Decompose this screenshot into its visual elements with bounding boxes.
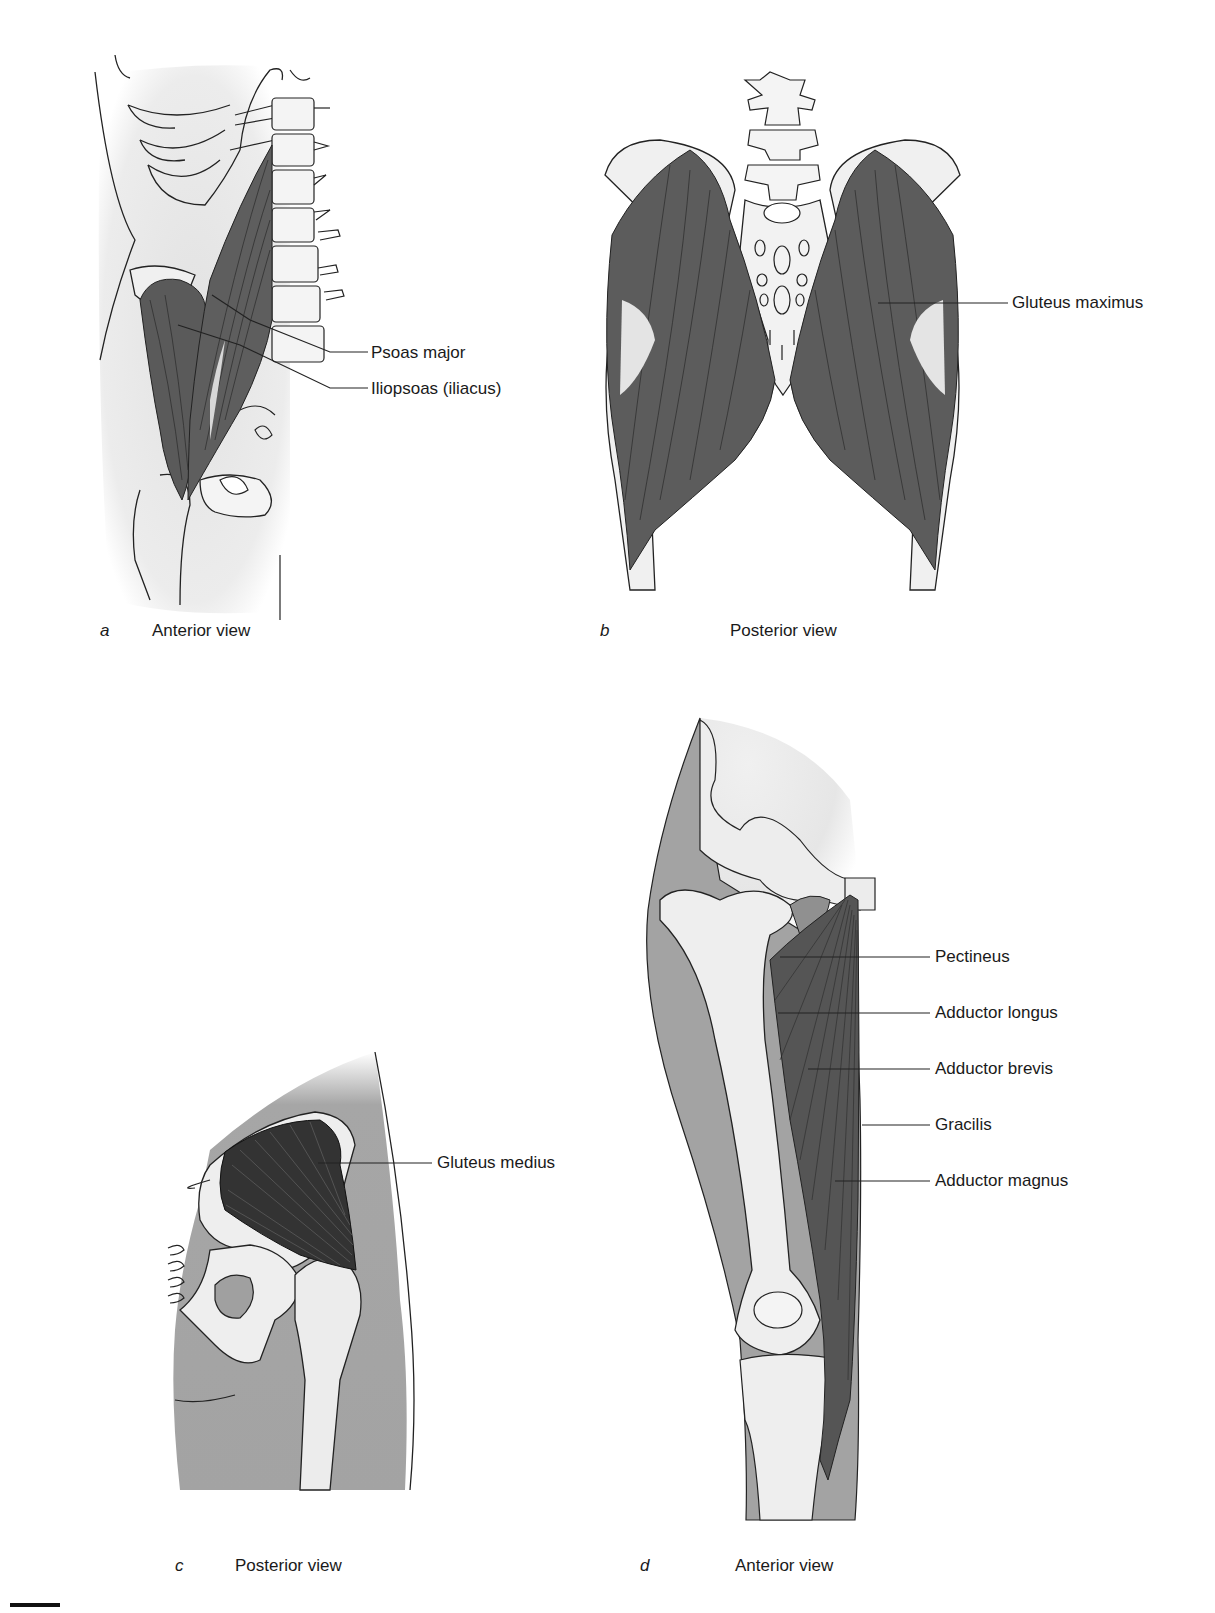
panel-d-anterior-adductors: Pectineus Adductor longus Adductor brevi… xyxy=(0,0,1215,1613)
label-gracilis: Gracilis xyxy=(935,1115,992,1135)
label-adductor-brevis: Adductor brevis xyxy=(935,1059,1053,1079)
caption-anterior-view-d: Anterior view xyxy=(735,1556,833,1576)
adductor-group-illustration xyxy=(0,0,1215,1613)
caption-letter-d: d xyxy=(640,1556,649,1576)
label-pectineus: Pectineus xyxy=(935,947,1010,967)
label-adductor-longus: Adductor longus xyxy=(935,1003,1058,1023)
label-adductor-magnus: Adductor magnus xyxy=(935,1171,1068,1191)
figure-divider-rule xyxy=(10,1603,60,1607)
